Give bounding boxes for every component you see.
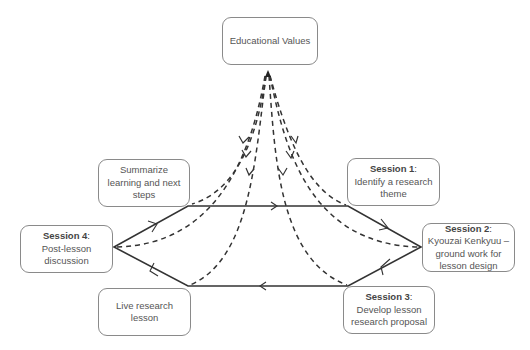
educational-values-label: Educational Values <box>230 35 311 48</box>
session-4-node: Session 4: Post-lesson discussion <box>20 225 113 273</box>
session-2-text: Kyouzai Kenkyuu – ground work for lesson… <box>426 235 511 273</box>
summarize-node: Summarize learning and next steps <box>98 159 190 207</box>
cycle-direction-arrows <box>148 202 390 290</box>
cycle-path <box>114 206 421 286</box>
summarize-text: Summarize learning and next steps <box>102 164 186 202</box>
session-3-title: Session 3: <box>366 291 413 304</box>
live-research-lesson-text: Live research lesson <box>102 300 187 325</box>
session-1-text: Identify a research theme <box>351 176 436 201</box>
session-2-title: Session 2: <box>445 223 492 236</box>
session-3-text: Develop lesson research proposal <box>347 304 431 329</box>
session-2-node: Session 2: Kyouzai Kenkyuu – ground work… <box>422 223 515 272</box>
live-research-lesson-node: Live research lesson <box>98 288 191 336</box>
apex-arrow-icon <box>265 70 271 77</box>
educational-values-node: Educational Values <box>222 17 318 65</box>
session-1-node: Session 1: Identify a research theme <box>347 158 440 206</box>
influence-arrowheads <box>239 136 298 175</box>
session-3-node: Session 3: Develop lesson research propo… <box>343 286 435 334</box>
session-4-text: Post-lesson discussion <box>24 243 109 268</box>
session-1-title: Session 1: <box>370 163 417 176</box>
session-4-title: Session 4: <box>43 230 90 243</box>
